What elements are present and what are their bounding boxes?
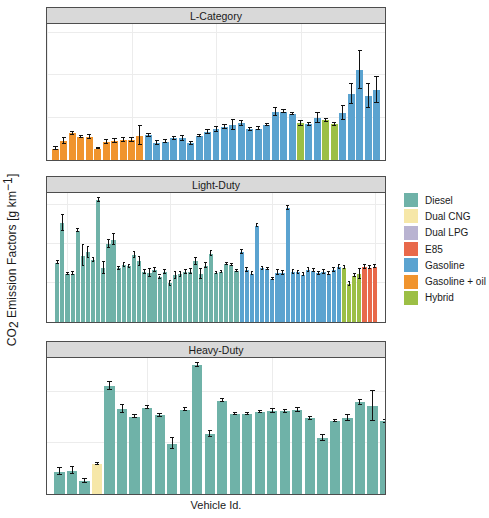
error-bar-cap — [87, 138, 91, 139]
error-bar-cap — [180, 135, 184, 136]
error-bar-cap — [332, 271, 335, 272]
error-bar-cap — [179, 276, 182, 277]
error-bar-cap — [146, 133, 150, 134]
error-bar-cap — [322, 273, 325, 274]
error-bar — [376, 77, 377, 103]
bar — [196, 136, 203, 160]
panel-strip-label: Heavy-Duty — [46, 341, 386, 358]
error-bar-cap — [295, 411, 299, 412]
bar — [77, 137, 84, 160]
bar — [199, 274, 203, 322]
error-bar — [62, 215, 63, 231]
error-bar-cap — [112, 138, 116, 139]
error-bar-cap — [172, 136, 176, 137]
chart-root: CO2 Emission Factors [g km−1] L-Category… — [0, 0, 489, 518]
y-tick-mark — [46, 282, 47, 283]
bar — [229, 265, 233, 322]
bar — [317, 438, 327, 494]
legend-item-dual-cng: Dual CNG — [404, 208, 486, 224]
error-bar-cap — [180, 140, 184, 141]
bar — [330, 421, 340, 494]
error-bar-cap — [281, 270, 284, 271]
error-bar-cap — [121, 137, 125, 138]
error-bar-cap — [368, 265, 371, 266]
bar — [280, 273, 284, 322]
bar — [209, 254, 213, 322]
error-bar — [139, 126, 140, 145]
panel-strip-label: Light-Duty — [46, 176, 386, 193]
error-bar-cap — [343, 268, 346, 269]
error-bar-cap — [157, 413, 161, 414]
error-bar-cap — [283, 412, 287, 413]
bar — [178, 274, 182, 322]
x-tick-mark — [169, 322, 170, 323]
y-axis-title-mid: Emission Factors [g km — [5, 191, 19, 321]
error-bar-cap — [368, 268, 371, 269]
error-bar-cap — [123, 266, 126, 267]
bar — [117, 268, 121, 322]
legend-label: Dual LPG — [425, 227, 468, 238]
bar — [240, 252, 244, 322]
error-bar-cap — [104, 143, 108, 144]
error-bar-cap — [251, 271, 254, 272]
error-bar-cap — [128, 264, 131, 265]
error-bar-cap — [231, 119, 235, 120]
error-bar-cap — [332, 267, 335, 268]
error-bar-cap — [270, 412, 274, 413]
bar — [316, 273, 320, 322]
error-bar-cap — [297, 270, 300, 271]
error-bar-cap — [317, 271, 320, 272]
x-tick-mark — [272, 322, 273, 323]
bar — [314, 118, 321, 160]
legend-color-swatch — [404, 226, 418, 240]
legend-item-diesel: Diesel — [404, 192, 486, 208]
bar — [96, 200, 100, 322]
bar — [342, 268, 346, 322]
error-bar-cap — [333, 421, 337, 422]
error-bar-cap — [235, 271, 238, 272]
legend-color-swatch — [404, 242, 418, 256]
error-bar-cap — [92, 257, 95, 258]
bar — [213, 129, 220, 160]
error-bar-cap — [302, 272, 305, 273]
error-bar-cap — [189, 273, 192, 274]
error-bar-cap — [297, 273, 300, 274]
error-bar-cap — [292, 269, 295, 270]
error-bar-cap — [174, 278, 177, 279]
error-bar-cap — [239, 120, 243, 121]
legend-item-dual-lpg: Dual LPG — [404, 225, 486, 241]
error-bar-cap — [70, 473, 74, 474]
error-bar-cap — [82, 244, 85, 245]
error-bar-cap — [95, 462, 99, 463]
panel-l-category: L-Category0100200300010203040 — [46, 7, 386, 161]
error-bar-cap — [271, 277, 274, 278]
bar — [162, 142, 169, 160]
bar — [188, 272, 192, 322]
error-bar-cap — [345, 420, 349, 421]
bar — [214, 273, 218, 322]
bar — [101, 268, 105, 322]
error-bar-cap — [129, 137, 133, 138]
bar — [187, 143, 194, 160]
error-bar-cap — [341, 105, 345, 106]
error-bar-cap — [225, 262, 228, 263]
error-bar-cap — [245, 412, 249, 413]
bar — [92, 464, 102, 494]
bar — [192, 365, 202, 494]
error-bar-cap — [349, 83, 353, 84]
error-bar-cap — [324, 121, 328, 122]
error-bar-cap — [308, 416, 312, 417]
bar — [142, 408, 152, 494]
error-bar-cap — [214, 131, 218, 132]
bar — [69, 133, 76, 160]
error-bar-cap — [107, 389, 111, 390]
error-bar-cap — [298, 120, 302, 121]
error-bar-cap — [172, 139, 176, 140]
error-bar-cap — [120, 412, 124, 413]
x-tick-mark — [131, 160, 132, 161]
error-bar-cap — [97, 201, 100, 202]
error-bar-cap — [194, 257, 197, 258]
y-tick-label: 0 — [46, 155, 47, 162]
bar — [137, 261, 141, 322]
error-bar-cap — [208, 436, 212, 437]
